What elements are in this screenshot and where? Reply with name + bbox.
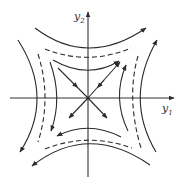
y2-axis-label: y2 bbox=[73, 10, 85, 25]
phase-portrait-diagram: y2 y1 bbox=[0, 0, 185, 186]
right-outer-trajectory bbox=[140, 40, 157, 152]
left-outer-trajectory bbox=[18, 40, 37, 152]
left-inner-trajectory bbox=[50, 62, 57, 131]
separatrix-sw bbox=[69, 98, 88, 118]
top-outer-trajectory bbox=[35, 28, 146, 48]
separatrix-nw bbox=[58, 68, 76, 86]
separatrix-se bbox=[88, 98, 107, 118]
bottom-outer-trajectory bbox=[32, 144, 150, 166]
left-trajectories bbox=[18, 40, 57, 152]
separatrix-nw-tail bbox=[76, 86, 88, 98]
y1-axis-label: y1 bbox=[161, 102, 173, 117]
bottom-trajectories bbox=[32, 128, 150, 166]
top-inner-trajectory bbox=[53, 60, 119, 70]
top-trajectories bbox=[35, 28, 146, 70]
origin-point bbox=[87, 97, 90, 100]
bottom-inner-trajectory bbox=[57, 128, 121, 137]
right-dashed-trajectory bbox=[133, 56, 141, 148]
right-trajectories bbox=[119, 40, 157, 152]
separatrix-ne-inward-arrow bbox=[99, 80, 104, 86]
